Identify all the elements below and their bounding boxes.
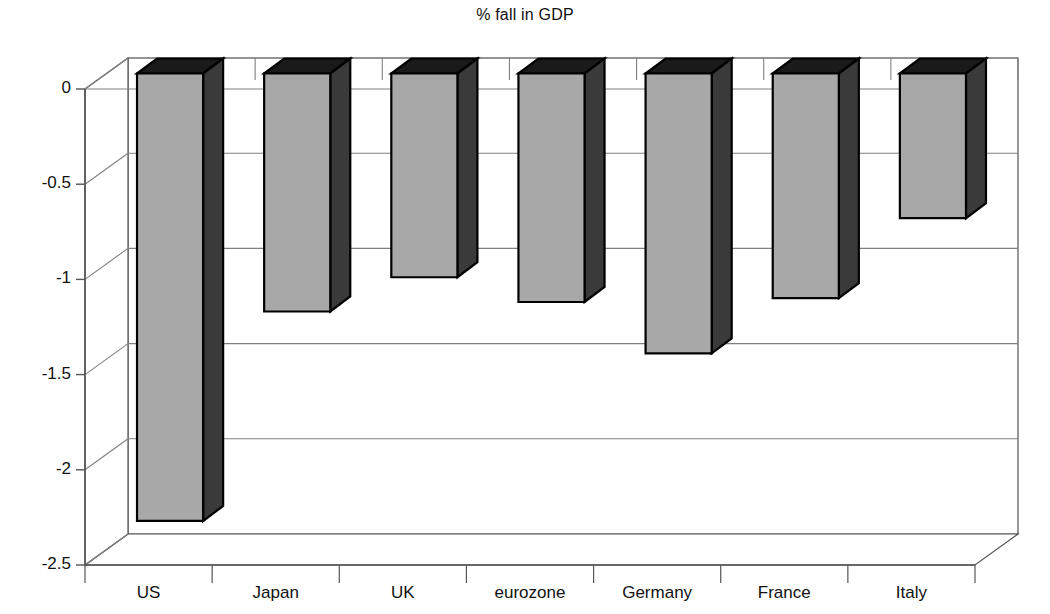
y-axis-label-3: -1.5: [0, 364, 71, 384]
x-axis-label-italy: Italy: [841, 583, 981, 603]
y-axis-label-0: 0: [0, 78, 71, 98]
x-axis-label-france: France: [714, 583, 854, 603]
y-axis-label-4: -2: [0, 459, 71, 479]
bar-eurozone: [518, 59, 604, 302]
bar-uk: [391, 59, 477, 278]
y-axis-label-1: -0.5: [0, 173, 71, 193]
x-axis-label-eurozone: eurozone: [460, 583, 600, 603]
x-axis-label-germany: Germany: [587, 583, 727, 603]
x-axis-label-japan: Japan: [206, 583, 346, 603]
bar-italy: [900, 59, 986, 219]
bar-france: [773, 59, 859, 299]
chart-container: % fall in GDP 0-0.5-1-1.5-2-2.5 USJapanU…: [0, 0, 1050, 614]
chart-left-wall: [85, 58, 128, 565]
chart-floor: [85, 534, 1018, 565]
bar-us: [137, 59, 223, 521]
x-axis-label-uk: UK: [333, 583, 473, 603]
bar-germany: [646, 59, 732, 354]
chart-plot-area: [0, 0, 1050, 614]
y-axis-label-2: -1: [0, 268, 71, 288]
bar-japan: [264, 59, 350, 312]
x-axis-label-us: US: [79, 583, 219, 603]
y-axis-label-5: -2.5: [0, 554, 71, 574]
